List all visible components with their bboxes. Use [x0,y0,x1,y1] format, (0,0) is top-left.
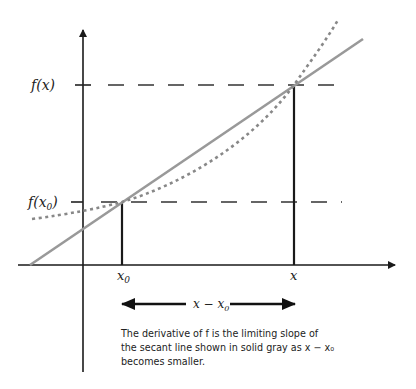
interval-label: x − x0 [193,297,229,313]
secant-line [30,39,363,265]
caption-line-3: becomes smaller. [121,355,381,369]
x0-label: x0 [117,268,130,285]
fx0-label: f(x0) [27,194,58,212]
x-label: x [290,268,298,283]
function-curve [32,20,338,219]
caption-line-2: the secant line shown in solid gray as x… [121,341,381,355]
caption-line-1: The derivative of f is the limiting slop… [121,327,381,341]
fx-label: f(x) [30,77,55,93]
caption: The derivative of f is the limiting slop… [121,327,381,369]
